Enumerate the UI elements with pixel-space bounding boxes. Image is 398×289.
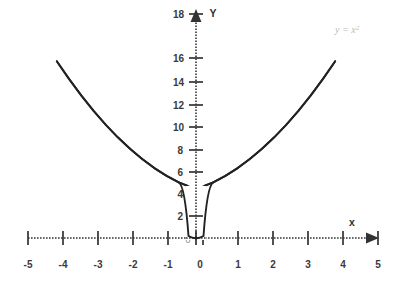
x-tick-label--1: -1 (164, 259, 173, 270)
x-tick-label--2: -2 (129, 259, 138, 270)
y-tick-label-2: 2 (177, 211, 183, 222)
x-tick-label--3: -3 (94, 259, 103, 270)
x-tick-label-3: 3 (305, 259, 311, 270)
y-tick-label-10: 10 (173, 122, 185, 133)
graph-figure: -5 -4 -3 -2 -1 0 1 2 3 4 5 x (0, 0, 398, 289)
parabola-plot: -5 -4 -3 -2 -1 0 1 2 3 4 5 x (0, 0, 398, 289)
curve-equation-base: y = x (334, 24, 356, 35)
y-tick-label-18: 18 (173, 9, 185, 20)
x-axis-label: x (349, 216, 355, 228)
x-tick-label--5: -5 (24, 259, 33, 270)
y-tick-label-6: 6 (177, 167, 183, 178)
x-tick-label-0: 0 (197, 259, 203, 270)
y-axis-label: Y (209, 7, 216, 19)
x-tick-label-5: 5 (375, 259, 381, 270)
x-tick-label-4: 4 (340, 259, 346, 270)
x-tick-label-2: 2 (270, 259, 276, 270)
y-tick-label-12: 12 (173, 100, 185, 111)
x-axis-arrowhead (366, 233, 379, 244)
y-tick-label-8: 8 (177, 145, 183, 156)
curve-equation-exponent: 2 (356, 24, 360, 32)
x-tick-label--4: -4 (59, 259, 68, 270)
y-axis-arrowhead (191, 9, 202, 22)
curve-equation-label: y = x2 (334, 24, 360, 36)
y-tick-label-14: 14 (173, 77, 185, 88)
x-tick-label-1: 1 (235, 259, 241, 270)
y-tick-label-16: 16 (173, 53, 185, 64)
